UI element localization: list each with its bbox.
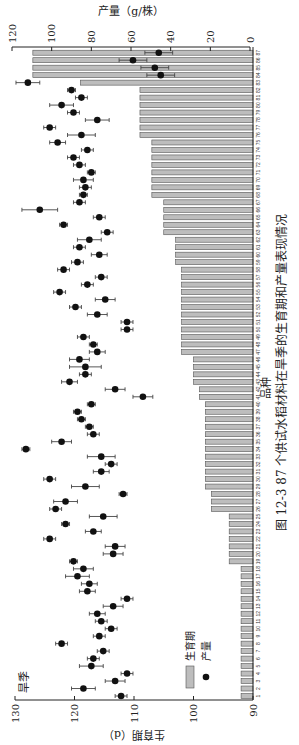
growth-bar (194, 379, 254, 384)
right-axis-title: 产量（g/株） (98, 4, 164, 18)
growth-bar (164, 222, 253, 227)
yield-dot (82, 483, 89, 490)
growth-bar (152, 147, 253, 152)
category-label: 83 (255, 80, 261, 86)
yield-dot (118, 693, 125, 700)
growth-bar (140, 125, 253, 130)
category-label: 31 (255, 469, 261, 475)
yield-dot (86, 423, 93, 430)
yield-dot (80, 685, 87, 692)
category-label: 17 (255, 573, 261, 579)
category-label: 4 (255, 672, 261, 675)
right-tick-label: 40 (165, 30, 176, 43)
growth-bar (205, 402, 253, 407)
category-label: 9 (255, 635, 261, 638)
category-label: 87 (255, 50, 261, 56)
yield-dot (54, 139, 61, 146)
category-label: 30 (255, 476, 261, 482)
figure: 90100110120130020406080100120 1234567891… (0, 0, 299, 745)
category-label: 26 (255, 506, 261, 512)
yield-dot (112, 678, 119, 685)
growth-bar (205, 439, 253, 444)
growth-bar (199, 394, 253, 399)
category-label: 67 (255, 199, 261, 205)
growth-bar (205, 462, 253, 467)
yield-dot (96, 214, 103, 221)
category-label: 37 (255, 424, 261, 430)
left-tick-label: 90 (248, 704, 259, 717)
legend: 生育期 产量 (184, 631, 212, 688)
left-axis-title: 生育期（d） (103, 728, 165, 742)
category-label: 27 (255, 499, 261, 505)
right-tick-label: 120 (7, 24, 18, 43)
yield-dot (72, 304, 79, 311)
yield-dot (58, 438, 65, 445)
yield-dot (88, 663, 95, 670)
yield-dot (98, 453, 105, 460)
yield-dot (124, 670, 131, 677)
yield-dot (120, 491, 127, 498)
yield-dot (98, 274, 105, 281)
category-label: 33 (255, 454, 261, 460)
growth-bar (205, 432, 253, 437)
yield-dot (155, 49, 162, 56)
category-label: 70 (255, 177, 261, 183)
growth-bar (205, 417, 253, 422)
category-label: 58 (255, 267, 261, 273)
category-label: 36 (255, 431, 261, 437)
yield-dot (70, 109, 77, 116)
category-label: 57 (255, 274, 261, 280)
category-label: 48 (255, 341, 261, 347)
category-label: 60 (255, 252, 261, 258)
right-tick-label: 100 (46, 24, 57, 43)
yield-dot (130, 57, 137, 64)
growth-bar (241, 566, 253, 571)
growth-bar (205, 424, 253, 429)
growth-bar (241, 634, 253, 639)
yield-dot (46, 476, 53, 483)
growth-bar (241, 596, 253, 601)
category-label: 59 (255, 259, 261, 265)
yield-dot (68, 87, 75, 94)
yield-dot (74, 408, 81, 415)
yield-dot (58, 640, 65, 647)
yield-dot (80, 177, 87, 184)
right-tick-label: 80 (86, 30, 97, 43)
category-label: 35 (255, 439, 261, 445)
category-label: 45 (255, 364, 261, 370)
growth-bar (229, 551, 253, 556)
growth-bar (241, 686, 253, 691)
category-label: 11 (255, 618, 261, 623)
growth-bar (241, 619, 253, 624)
category-label: 40 (255, 401, 261, 407)
yield-dot (76, 199, 83, 206)
category-label: 49 (255, 334, 261, 340)
growth-bar (211, 507, 253, 512)
yield-dot (56, 289, 63, 296)
category-label: 86 (255, 57, 261, 63)
yield-dot (78, 94, 85, 101)
category-label: 64 (255, 222, 261, 228)
growth-bar (241, 671, 253, 676)
growth-bar (182, 327, 253, 332)
yield-dot (78, 416, 85, 423)
growth-bar (140, 95, 253, 100)
yield-dot (76, 356, 83, 363)
yield-dot (100, 648, 107, 655)
yield-dot (88, 169, 95, 176)
category-label: 28 (255, 491, 261, 497)
category-label: 38 (255, 416, 261, 422)
growth-bar (205, 469, 253, 474)
category-label: 13 (255, 603, 261, 609)
season-label: 旱季 (18, 671, 31, 693)
growth-bar (205, 409, 253, 414)
yield-dot (80, 334, 87, 341)
growth-bar (194, 372, 254, 377)
growth-bar (205, 477, 253, 482)
yield-dots (23, 49, 164, 699)
yield-dot (78, 132, 85, 139)
yield-dot (140, 393, 147, 400)
category-label: 55 (255, 289, 261, 295)
yield-dot (80, 192, 87, 199)
growth-bar (241, 641, 253, 646)
